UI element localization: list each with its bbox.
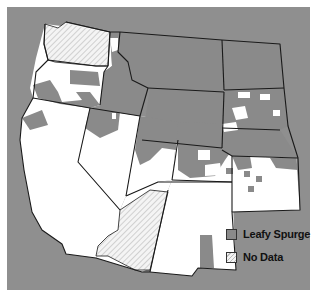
legend-label: Leafy Spurge <box>243 228 310 240</box>
legend-item-no-data: No Data <box>226 248 310 266</box>
legend-label: No Data <box>243 251 283 263</box>
no-data-swatch-icon <box>226 252 237 263</box>
leafy-spurge-swatch-icon <box>226 229 237 240</box>
state-washington <box>44 22 110 66</box>
legend: Leafy Spurge No Data <box>226 225 310 271</box>
legend-item-leafy-spurge: Leafy Spurge <box>226 225 310 243</box>
